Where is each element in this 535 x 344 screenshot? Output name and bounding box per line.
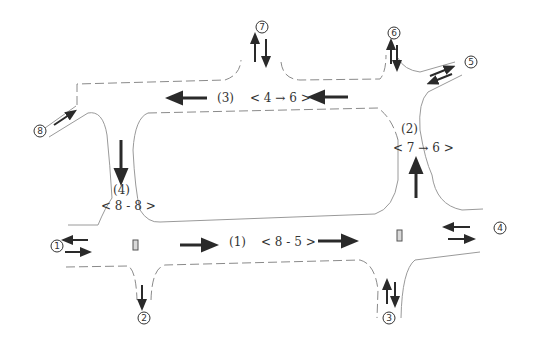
svg-text:2: 2	[141, 313, 147, 323]
svg-text:3: 3	[386, 313, 392, 323]
node-6: 6	[388, 27, 400, 39]
road-edge-top-outer-mid	[281, 55, 386, 80]
svg-text:6: 6	[391, 28, 397, 38]
link2-label: (2)	[401, 122, 418, 136]
node-2: 2	[138, 312, 150, 324]
svg-text:7: 7	[259, 22, 265, 32]
road-edge-node5-lower	[420, 75, 462, 175]
flow-arrows	[54, 38, 470, 305]
arrow-node5-out	[432, 74, 452, 82]
svg-text:4: 4	[497, 223, 503, 233]
road-edge-right-vertical-outer	[432, 175, 483, 210]
arrow-node5-in	[430, 68, 450, 76]
road-edge-node8-upper	[45, 106, 76, 128]
node-markers: 1 2 3 4 5 6 7 8	[34, 21, 506, 324]
road-edge-left-vertical-inner	[133, 113, 398, 222]
link4-label: (4)	[113, 183, 130, 197]
road-edge-top-inner	[148, 108, 398, 140]
node-5: 5	[465, 56, 477, 68]
node-8: 8	[34, 125, 46, 137]
link3-label: (3)	[217, 91, 234, 105]
node-7: 7	[256, 21, 268, 33]
road-edge-bottom	[66, 266, 137, 300]
link-labels: (3) < 4 → 6 > (2) < 7 → 6 > (4) < 8 - 8 …	[101, 91, 454, 249]
road-edge-bottom-mid	[151, 260, 378, 318]
link3-od: < 4 → 6 >	[250, 91, 311, 105]
svg-text:1: 1	[54, 241, 60, 251]
svg-text:8: 8	[37, 126, 43, 136]
signal-left-intersection	[133, 240, 138, 250]
node-1: 1	[51, 240, 63, 252]
node-4: 4	[494, 222, 506, 234]
link2-od: < 7 → 6 >	[393, 141, 454, 155]
svg-text:5: 5	[468, 57, 474, 67]
node-3: 3	[383, 312, 395, 324]
road-network-diagram: (3) < 4 → 6 > (2) < 7 → 6 > (4) < 8 - 8 …	[0, 0, 535, 344]
signal-right-intersection	[397, 230, 402, 241]
link1-label: (1)	[229, 235, 246, 249]
link1-od: < 8 - 5 >	[261, 235, 316, 249]
road-edge-bottom-right	[401, 252, 480, 318]
link4-od: < 8 - 8 >	[101, 199, 156, 213]
